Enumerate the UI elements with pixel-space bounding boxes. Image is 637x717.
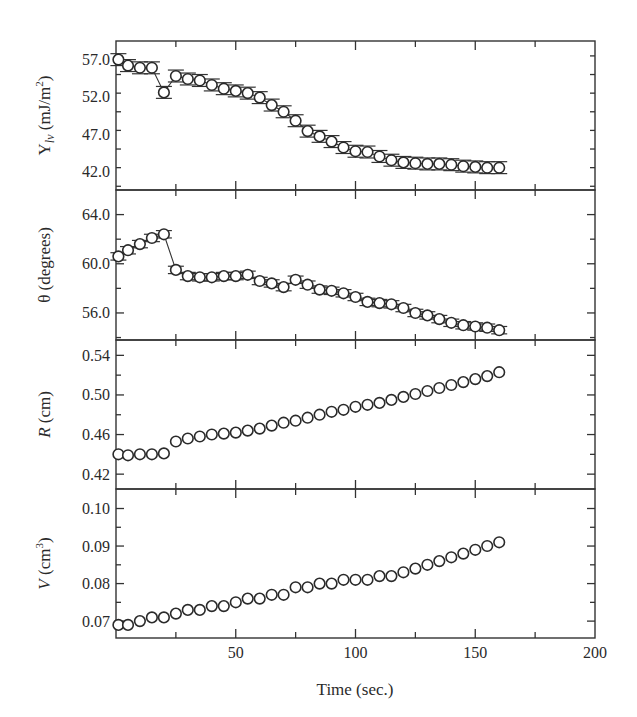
data-point	[171, 436, 182, 447]
data-point	[350, 146, 361, 157]
data-point	[362, 575, 373, 586]
y-tick-label: 0.09	[82, 538, 110, 555]
data-point	[219, 271, 230, 282]
data-point	[219, 601, 230, 612]
data-point	[278, 590, 289, 601]
y-tick-label: 42.0	[82, 163, 110, 180]
data-point	[494, 325, 505, 336]
y-tick-label: 0.42	[82, 466, 110, 483]
data-point	[159, 448, 170, 459]
data-point	[135, 63, 146, 74]
data-point	[386, 155, 397, 166]
data-point	[422, 310, 433, 321]
data-point	[159, 229, 170, 240]
x-axis-title: Time (sec.)	[317, 680, 394, 699]
data-point	[278, 417, 289, 428]
plot-frame	[116, 41, 595, 190]
data-point	[147, 63, 158, 74]
data-point	[302, 279, 313, 290]
x-tick-label: 150	[463, 644, 487, 661]
data-point	[278, 282, 289, 293]
data-point	[123, 620, 134, 631]
data-point	[422, 560, 433, 571]
data-point	[219, 428, 230, 439]
data-point	[374, 398, 385, 409]
data-point	[494, 537, 505, 548]
x-tick-label: 100	[344, 644, 368, 661]
plot-frame	[116, 190, 595, 340]
data-point	[195, 272, 206, 283]
data-point	[171, 71, 182, 82]
data-point	[302, 582, 313, 593]
stacked-time-series-chart: 42.047.052.057.0Ylv (mJ/m2)56.060.064.0θ…	[0, 0, 637, 717]
data-point	[398, 392, 409, 403]
chart-panels: 42.047.052.057.0Ylv (mJ/m2)56.060.064.0θ…	[33, 41, 607, 661]
data-point	[135, 239, 146, 250]
data-point	[386, 571, 397, 582]
data-point	[434, 314, 445, 325]
data-point	[195, 605, 206, 616]
data-point	[242, 425, 253, 436]
data-point	[314, 131, 325, 142]
data-point	[147, 612, 158, 623]
data-point	[386, 299, 397, 310]
data-point	[446, 159, 457, 170]
data-point	[266, 420, 277, 431]
data-point	[374, 298, 385, 309]
data-point	[207, 272, 218, 283]
data-point	[171, 608, 182, 619]
data-point	[482, 322, 493, 333]
data-point	[446, 380, 457, 391]
data-point	[314, 578, 325, 589]
panel-radius: 0.420.460.500.54R (cm)	[35, 340, 595, 489]
data-point	[350, 402, 361, 413]
data-point	[290, 115, 301, 126]
data-point	[422, 159, 433, 170]
data-point	[242, 270, 253, 281]
data-point	[362, 147, 373, 158]
y-axis-title: θ (degrees)	[35, 227, 54, 303]
data-point	[183, 74, 194, 85]
x-tick-label: 50	[228, 644, 244, 661]
data-point	[374, 571, 385, 582]
data-point	[135, 616, 146, 627]
data-point	[113, 251, 124, 262]
data-point	[290, 415, 301, 426]
data-point	[266, 100, 277, 111]
data-point	[231, 271, 242, 282]
data-point	[207, 80, 218, 91]
y-tick-label: 0.10	[82, 500, 110, 517]
data-point	[254, 276, 265, 287]
panel-volume: 0.070.080.090.10V (cm3)50100150200	[33, 489, 607, 661]
data-point	[470, 374, 481, 385]
data-point	[458, 548, 469, 559]
data-point	[207, 429, 218, 440]
data-point	[123, 450, 134, 461]
data-point	[494, 367, 505, 378]
data-point	[458, 161, 469, 172]
plot-frame	[116, 340, 595, 489]
data-point	[254, 92, 265, 103]
data-point	[398, 567, 409, 578]
data-point	[242, 593, 253, 604]
data-point	[231, 597, 242, 608]
data-point	[231, 86, 242, 97]
panel-theta: 56.060.064.0θ (degrees)	[35, 190, 595, 340]
data-point	[147, 449, 158, 460]
data-point	[482, 541, 493, 552]
y-tick-label: 0.46	[82, 426, 110, 443]
data-point	[314, 409, 325, 420]
y-tick-label: 0.08	[82, 575, 110, 592]
data-point	[266, 278, 277, 289]
data-point	[326, 136, 337, 147]
data-point	[398, 157, 409, 168]
data-point	[434, 556, 445, 567]
data-point	[123, 245, 134, 256]
data-point	[410, 563, 421, 574]
y-axis-title: V (cm3)	[33, 537, 54, 589]
data-point	[434, 159, 445, 170]
data-point	[123, 60, 134, 71]
data-point	[410, 308, 421, 319]
data-point	[183, 271, 194, 282]
data-point	[398, 303, 409, 314]
